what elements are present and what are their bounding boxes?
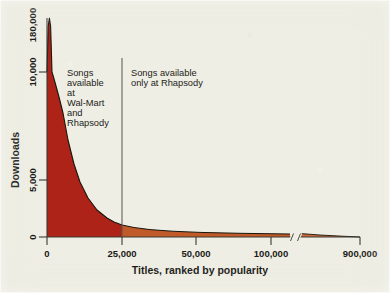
x-tick-label-100000: 100,000	[254, 248, 288, 259]
annotation-head-line-4: Wal-Mart	[67, 98, 105, 108]
annotation-head-line-3: at	[67, 88, 75, 98]
tail-area-near-path	[122, 225, 290, 237]
y-tick-labels: 0 5,000 10,000 180,000	[27, 8, 38, 240]
annotation-tail-label: Songs available only at Rhapsody	[131, 68, 203, 88]
y-axis-title: Downloads	[9, 132, 21, 188]
series-tail-area-near	[122, 225, 290, 237]
annotation-head-label: Songs available at Wal-Mart and Rhapsody	[67, 68, 109, 128]
y-tick-label-5000: 5,000	[27, 168, 38, 192]
annotation-tail-line-1: Songs available	[131, 68, 197, 78]
x-tick-labels: 0 25,000 50,000 100,000 900,000	[44, 248, 377, 259]
x-tick-marks	[47, 237, 360, 245]
y-tick-label-180000: 180,000	[27, 8, 38, 42]
x-tick-label-0: 0	[44, 248, 49, 259]
x-tick-label-50000: 50,000	[181, 248, 210, 259]
annotation-head-line-2: available	[67, 78, 104, 88]
annotation-head-line-1: Songs	[67, 68, 94, 78]
x-tick-label-25000: 25,000	[107, 248, 136, 259]
annotation-tail-line-2: only at Rhapsody	[131, 78, 203, 88]
y-tick-label-10000: 10,000	[27, 57, 38, 86]
annotation-head-line-5: and	[67, 108, 83, 118]
x-axis-break-marker	[290, 233, 301, 241]
y-tick-label-0: 0	[27, 234, 38, 239]
x-tick-label-900000: 900,000	[343, 248, 377, 259]
long-tail-area-chart: 0 5,000 10,000 180,000 Downloads 0 25,00…	[0, 0, 390, 293]
chart-figure: 0 5,000 10,000 180,000 Downloads 0 25,00…	[0, 0, 390, 293]
x-axis-title: Titles, ranked by popularity	[132, 264, 269, 276]
annotation-head-line-6: Rhapsody	[67, 118, 109, 128]
y-tick-marks	[39, 72, 47, 237]
